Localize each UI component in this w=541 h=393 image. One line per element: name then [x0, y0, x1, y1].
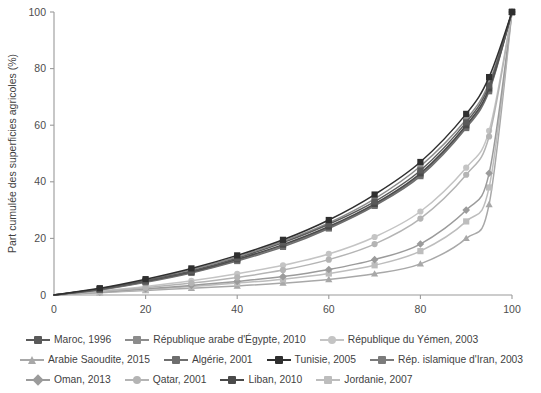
series-marker — [509, 9, 515, 15]
series-marker — [463, 119, 469, 125]
legend-marker-icon — [26, 374, 50, 386]
y-axis-title: Part cumulée des superficies agricoles (… — [6, 54, 18, 253]
legend-label: Maroc, 1996 — [54, 335, 111, 345]
legend-label: Tunisie, 2005 — [295, 355, 356, 365]
x-tick-label: 100 — [503, 303, 521, 315]
legend-label: Oman, 2013 — [54, 375, 111, 385]
legend-label: Qatar, 2001 — [153, 375, 207, 385]
series-marker — [188, 265, 194, 271]
x-tick-label: 40 — [231, 303, 243, 315]
legend-item[interactable]: Tunisie, 2005 — [267, 354, 356, 366]
legend-label: République arabe d'Égypte, 2010 — [153, 335, 306, 345]
series-marker — [417, 215, 423, 221]
legend-label: Liban, 2010 — [248, 375, 302, 385]
series-marker — [372, 234, 378, 240]
legend-row: Oman, 2013Qatar, 2001Liban, 2010Jordanie… — [0, 370, 541, 390]
series-marker — [326, 217, 332, 223]
series-marker — [486, 133, 492, 139]
lorenz-curve-plot: 020406080100020406080100Part cumulée des… — [0, 0, 541, 320]
legend-circle-icon — [328, 336, 336, 344]
legend-row: Maroc, 1996République arabe d'Égypte, 20… — [0, 330, 541, 350]
legend-label: Jordanie, 2007 — [344, 375, 412, 385]
series-marker — [234, 274, 240, 280]
x-tick-label: 20 — [140, 303, 152, 315]
legend-item[interactable]: Liban, 2010 — [220, 374, 302, 386]
series-marker — [234, 252, 240, 258]
series-marker — [372, 199, 378, 205]
x-tick-label: 0 — [51, 303, 57, 315]
legend-label: Algérie, 2001 — [192, 355, 253, 365]
series-marker — [463, 111, 469, 117]
series-marker — [486, 184, 492, 190]
x-tick-label: 80 — [415, 303, 427, 315]
series-marker — [326, 251, 332, 257]
series-marker — [463, 172, 469, 178]
legend-triangle-icon — [28, 356, 36, 364]
legend-marker-icon — [267, 354, 291, 366]
series-marker — [143, 285, 149, 291]
y-tick-label: 20 — [34, 232, 46, 244]
legend-square-icon — [378, 356, 386, 364]
legend-square-icon — [228, 376, 236, 384]
legend-square-icon — [133, 336, 141, 344]
legend-row: Arabie Saoudite, 2015Algérie, 2001Tunisi… — [0, 350, 541, 370]
legend-item[interactable]: Algérie, 2001 — [164, 354, 253, 366]
legend-circle-icon — [133, 376, 141, 384]
y-tick-label: 60 — [34, 119, 46, 131]
legend-marker-icon — [164, 354, 188, 366]
legend-square-icon — [275, 356, 283, 364]
series-marker — [143, 276, 149, 282]
legend-item[interactable]: République du Yémen, 2003 — [320, 334, 478, 346]
series-marker — [463, 165, 469, 171]
series-marker — [417, 240, 425, 248]
y-tick-label: 40 — [34, 175, 46, 187]
legend-item[interactable]: République arabe d'Égypte, 2010 — [125, 334, 306, 346]
series-marker — [372, 241, 378, 247]
series-marker — [417, 167, 423, 173]
legend-marker-icon — [125, 374, 149, 386]
legend-marker-icon — [316, 374, 340, 386]
y-tick-label: 80 — [34, 62, 46, 74]
chart-page: 020406080100020406080100Part cumulée des… — [0, 0, 541, 393]
series-marker — [372, 191, 378, 197]
legend-marker-icon — [320, 334, 344, 346]
series-marker — [280, 237, 286, 243]
series-oman-2013 — [54, 8, 516, 296]
legend-marker-icon — [20, 354, 44, 366]
y-tick-label: 100 — [28, 6, 46, 18]
series-marker — [463, 218, 469, 224]
legend-marker-icon — [370, 354, 394, 366]
series-marker — [97, 285, 103, 291]
legend-square-icon — [34, 336, 42, 344]
legend-label: Rép. islamique d'Iran, 2003 — [398, 355, 523, 365]
series-marker — [417, 208, 423, 214]
series-marker — [188, 280, 194, 286]
legend-marker-icon — [125, 334, 149, 346]
x-tick-label: 60 — [323, 303, 335, 315]
legend-item[interactable]: Jordanie, 2007 — [316, 374, 412, 386]
series-marker — [417, 248, 423, 254]
series-marker — [486, 74, 492, 80]
legend-item[interactable]: Maroc, 1996 — [26, 334, 111, 346]
legend-diamond-icon — [32, 374, 43, 385]
y-tick-label: 0 — [40, 289, 46, 301]
legend-label: République du Yémen, 2003 — [348, 335, 478, 345]
legend-item[interactable]: Arabie Saoudite, 2015 — [20, 354, 150, 366]
legend-square-icon — [172, 356, 180, 364]
legend-label: Arabie Saoudite, 2015 — [48, 355, 150, 365]
series-marker — [326, 257, 332, 263]
legend-marker-icon — [26, 334, 50, 346]
legend-item[interactable]: Qatar, 2001 — [125, 374, 207, 386]
chart-area: 020406080100020406080100Part cumulée des… — [0, 0, 541, 320]
chart-legend: Maroc, 1996République arabe d'Égypte, 20… — [0, 330, 541, 393]
legend-square-icon — [324, 376, 332, 384]
series-marker — [486, 201, 493, 207]
series-marker — [417, 159, 423, 165]
series-marker — [280, 267, 286, 273]
series-path — [54, 12, 512, 295]
legend-item[interactable]: Rép. islamique d'Iran, 2003 — [370, 354, 523, 366]
legend-marker-icon — [220, 374, 244, 386]
legend-item[interactable]: Oman, 2013 — [26, 374, 111, 386]
